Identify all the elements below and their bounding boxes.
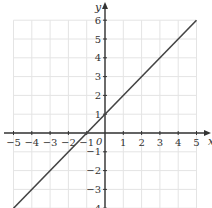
x-tick-label: 3 xyxy=(157,137,163,148)
line-chart: xy0−5−4−3−2−112345−4−3−2−1123456 xyxy=(0,0,212,208)
y-tick-label: 4 xyxy=(95,52,101,63)
x-tick-label: 1 xyxy=(120,137,126,148)
y-axis-arrow-icon xyxy=(102,2,108,9)
y-tick-label: 1 xyxy=(95,109,101,120)
x-tick-label: 4 xyxy=(175,137,181,148)
axes xyxy=(4,2,211,208)
x-tick-label: −5 xyxy=(6,137,21,148)
y-tick-label: −1 xyxy=(86,146,101,157)
y-tick-label: 3 xyxy=(95,71,101,82)
y-tick-label: −4 xyxy=(86,203,101,208)
x-tick-label: −3 xyxy=(43,137,58,148)
y-tick-label: 5 xyxy=(95,34,101,45)
y-tick-label: −2 xyxy=(86,165,101,176)
y-axis-label: y xyxy=(94,1,102,14)
x-axis-label: x xyxy=(208,135,212,148)
y-tick-label: 6 xyxy=(95,15,101,26)
x-tick-label: 2 xyxy=(138,137,144,148)
x-tick-label: −4 xyxy=(24,137,39,148)
tick-labels: xy0−5−4−3−2−112345−4−3−2−1123456 xyxy=(6,1,212,208)
y-tick-label: 2 xyxy=(95,90,101,101)
x-tick-label: 5 xyxy=(193,137,199,148)
y-tick-label: −3 xyxy=(86,184,101,195)
